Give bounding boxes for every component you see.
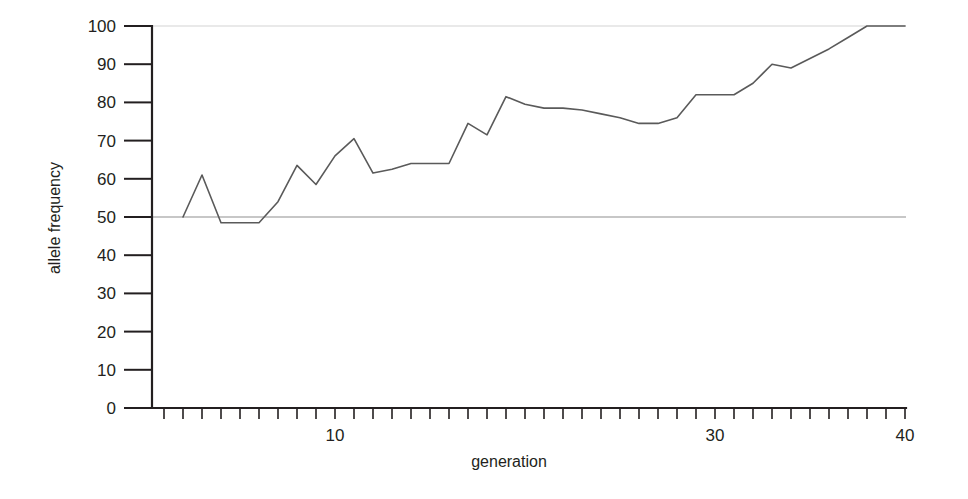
y-tick-label-50: 50 bbox=[97, 208, 116, 227]
x-tick-label-30: 30 bbox=[706, 426, 725, 445]
y-axis-ticks-group bbox=[124, 26, 152, 408]
x-tick-label-40: 40 bbox=[896, 426, 915, 445]
y-tick-label-100: 100 bbox=[88, 17, 116, 36]
y-tick-label-60: 60 bbox=[97, 170, 116, 189]
y-axis-title: allele frequency bbox=[46, 162, 63, 274]
x-tick-label-10: 10 bbox=[326, 426, 345, 445]
allele-frequency-chart: 0102030405060708090100 103040 generation… bbox=[0, 0, 968, 499]
y-tick-label-10: 10 bbox=[97, 361, 116, 380]
y-tick-label-0: 0 bbox=[107, 399, 116, 418]
reference-lines-group bbox=[152, 26, 906, 217]
y-tick-label-70: 70 bbox=[97, 132, 116, 151]
y-axis-tick-labels-group: 0102030405060708090100 bbox=[88, 17, 116, 418]
x-axis-title: generation bbox=[471, 453, 547, 470]
y-tick-label-30: 30 bbox=[97, 284, 116, 303]
y-tick-label-40: 40 bbox=[97, 246, 116, 265]
x-axis-ticks-group bbox=[164, 408, 905, 419]
y-tick-label-20: 20 bbox=[97, 323, 116, 342]
y-tick-label-90: 90 bbox=[97, 55, 116, 74]
y-tick-label-80: 80 bbox=[97, 93, 116, 112]
allele-frequency-line bbox=[183, 26, 905, 223]
chart-svg: 0102030405060708090100 103040 generation… bbox=[0, 0, 968, 499]
x-axis-tick-labels-group: 103040 bbox=[326, 426, 915, 445]
